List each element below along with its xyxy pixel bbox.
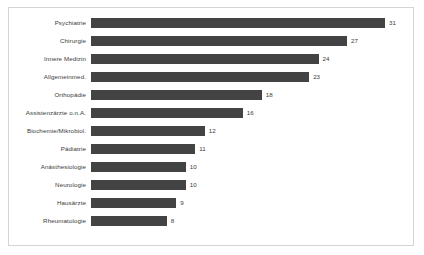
bar-value-label: 18 [262, 91, 273, 99]
bar-category-label: Assistenzärzte o.n.A. [9, 109, 91, 117]
bar-category-label: Hausärzte [9, 199, 91, 207]
bar-row: Psychiatrie31 [9, 14, 413, 32]
bar-category-label: Anästhesiologie [9, 163, 91, 171]
bar-category-label: Orthopädie [9, 91, 91, 99]
bar-category-label: Innere Medizin [9, 55, 91, 63]
bar-track: 24 [91, 50, 413, 68]
bar-row: Orthopädie18 [9, 86, 413, 104]
bar [91, 90, 262, 100]
bar [91, 108, 243, 118]
bar-value-label: 11 [195, 145, 205, 153]
bar [91, 126, 205, 136]
bar-track: 10 [91, 158, 413, 176]
bar-row: Rheumatologie8 [9, 212, 413, 230]
bar [91, 54, 319, 64]
bar [91, 144, 195, 154]
bar-track: 16 [91, 104, 413, 122]
bar-value-label: 27 [347, 37, 358, 45]
chart-frame: Psychiatrie31Chirurgie27Innere Medizin24… [8, 7, 414, 246]
bar-value-label: 10 [186, 163, 197, 171]
bar [91, 216, 167, 226]
bar-category-label: Psychiatrie [9, 19, 91, 27]
bar-track: 12 [91, 122, 413, 140]
bar-track: 11 [91, 140, 413, 158]
bar-category-label: Neurologie [9, 181, 91, 189]
bar [91, 36, 347, 46]
bar-track: 27 [91, 32, 413, 50]
bar-row: Hausärzte9 [9, 194, 413, 212]
bar-value-label: 23 [309, 73, 320, 81]
bar-row: Allgemeinmed.23 [9, 68, 413, 86]
bar-value-label: 9 [176, 199, 183, 207]
bar-row: Chirurgie27 [9, 32, 413, 50]
bar-track: 18 [91, 86, 413, 104]
bar-value-label: 24 [319, 55, 330, 63]
bar-track: 8 [91, 212, 413, 230]
bar-category-label: Allgemeinmed. [9, 73, 91, 81]
bar-chart-plot-area: Psychiatrie31Chirurgie27Innere Medizin24… [9, 8, 413, 245]
bar-category-label: Rheumatologie [9, 217, 91, 225]
bar-row: Biochemie/Mikrobiol.12 [9, 122, 413, 140]
bar [91, 162, 186, 172]
bar-track: 10 [91, 176, 413, 194]
bar [91, 198, 176, 208]
bar-value-label: 10 [186, 181, 197, 189]
bar-value-label: 31 [385, 19, 396, 27]
bar [91, 180, 186, 190]
bar-value-label: 8 [167, 217, 174, 225]
bar-row: Neurologie10 [9, 176, 413, 194]
bar-category-label: Pädiatrie [9, 145, 91, 153]
bar-row: Anästhesiologie10 [9, 158, 413, 176]
bar-row: Innere Medizin24 [9, 50, 413, 68]
bar-value-label: 12 [205, 127, 216, 135]
bar-category-label: Biochemie/Mikrobiol. [9, 127, 91, 135]
bar-category-label: Chirurgie [9, 37, 91, 45]
bar-track: 31 [91, 14, 413, 32]
bar-track: 23 [91, 68, 413, 86]
bar [91, 72, 309, 82]
bar-row: Assistenzärzte o.n.A.16 [9, 104, 413, 122]
bar-row: Pädiatrie11 [9, 140, 413, 158]
bar [91, 18, 385, 28]
bar-value-label: 16 [243, 109, 254, 117]
bar-track: 9 [91, 194, 413, 212]
